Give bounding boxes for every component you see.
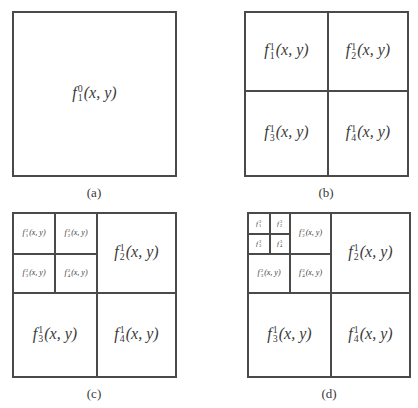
cell-f2-4: f24(x, y) bbox=[54, 253, 96, 292]
quadrant-label: f23(x, y) bbox=[22, 269, 45, 278]
quadrant-label: f13(x, y) bbox=[33, 326, 77, 344]
panel-b: f11(x, y) f12(x, y) f13(x, y) f14(x, y) bbox=[244, 11, 409, 177]
cell-f1-4: f14(x, y) bbox=[327, 90, 407, 175]
cell-f2-3: f23(x, y) bbox=[249, 253, 289, 292]
quadrant-label: f11(x, y) bbox=[264, 42, 308, 60]
quadrant-label: f23(x, y) bbox=[257, 269, 280, 278]
caption-b: (b) bbox=[306, 185, 346, 201]
quadrant-label: f01(x, y) bbox=[72, 85, 116, 103]
quadrant-label: f24(x, y) bbox=[64, 269, 87, 278]
cell-f0-1: f01(x, y) bbox=[14, 13, 175, 175]
quadrant-label: f12(x, y) bbox=[346, 42, 390, 60]
cell-f1-1: f11(x, y) bbox=[246, 13, 327, 90]
cell-f3-3: f33 bbox=[249, 233, 269, 253]
quadrant-label: f32 bbox=[277, 220, 283, 228]
cell-f1-4: f14(x, y) bbox=[96, 292, 175, 376]
quadrant-label: f13(x, y) bbox=[267, 326, 311, 344]
quadrant-label: f12(x, y) bbox=[348, 244, 392, 262]
quadrant-label: f34 bbox=[277, 240, 283, 248]
cell-f1-2: f12(x, y) bbox=[96, 214, 175, 292]
cell-f3-4: f34 bbox=[269, 233, 289, 253]
quadrant-label: f14(x, y) bbox=[348, 326, 392, 344]
quadrant-label: f14(x, y) bbox=[114, 326, 158, 344]
caption-d: (d) bbox=[309, 386, 349, 402]
quadrant-label: f14(x, y) bbox=[346, 124, 390, 142]
cell-f1-3: f13(x, y) bbox=[246, 90, 327, 175]
caption-c: (c) bbox=[74, 386, 114, 402]
cell-f3-2: f32 bbox=[269, 214, 289, 233]
cell-f1-4: f14(x, y) bbox=[330, 292, 409, 376]
cell-f2-4: f24(x, y) bbox=[289, 253, 330, 292]
cell-f1-2: f12(x, y) bbox=[330, 214, 409, 292]
cell-f1-3: f13(x, y) bbox=[249, 292, 330, 376]
panel-d: f31 f32 f33 f34 f22(x, y) f23(x, y) f24(… bbox=[247, 212, 411, 378]
quadrant-label: f22(x, y) bbox=[64, 229, 87, 238]
quadrant-label: f33 bbox=[256, 240, 262, 248]
quadrant-label: f21(x, y) bbox=[22, 229, 45, 238]
cell-f2-1: f21(x, y) bbox=[14, 214, 54, 253]
quadrant-label: f13(x, y) bbox=[264, 124, 308, 142]
cell-f2-3: f23(x, y) bbox=[14, 253, 54, 292]
cell-f1-3: f13(x, y) bbox=[14, 292, 96, 376]
caption-a: (a) bbox=[74, 185, 114, 201]
panel-c: f21(x, y) f22(x, y) f23(x, y) f24(x, y) … bbox=[12, 212, 177, 378]
cell-f3-1: f31 bbox=[249, 214, 269, 233]
quadrant-label: f22(x, y) bbox=[299, 229, 322, 238]
cell-f2-2: f22(x, y) bbox=[54, 214, 96, 253]
quadrant-label: f24(x, y) bbox=[299, 269, 322, 278]
quadrant-label: f31 bbox=[256, 220, 262, 228]
panel-a: f01(x, y) bbox=[12, 11, 177, 177]
cell-f2-2: f22(x, y) bbox=[289, 214, 330, 253]
quadrant-label: f12(x, y) bbox=[114, 244, 158, 262]
cell-f1-2: f12(x, y) bbox=[327, 13, 407, 90]
